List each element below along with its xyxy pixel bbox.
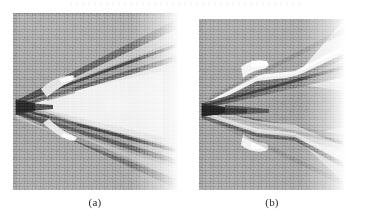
scan-artifact-strip <box>70 1 300 6</box>
figure-root: (a) (b) <box>0 0 367 222</box>
schlieren-image-a <box>13 13 178 190</box>
schlieren-panel-b <box>199 19 345 190</box>
panel-b-caption: (b) <box>257 196 287 208</box>
panel-a-caption: (a) <box>80 196 110 208</box>
schlieren-panel-a <box>13 13 178 190</box>
schlieren-image-b <box>199 19 345 190</box>
